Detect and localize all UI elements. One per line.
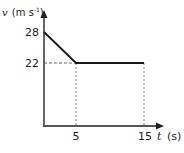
x-axis-label: t (s) bbox=[157, 130, 181, 143]
y-axis-label: v (m s-1) bbox=[2, 6, 44, 18]
x-tick-5: 5 bbox=[73, 130, 80, 143]
velocity-time-chart: v (m s-1) 28 22 5 15 t (s) bbox=[0, 0, 184, 153]
y-tick-28: 28 bbox=[25, 26, 39, 39]
y-tick-22: 22 bbox=[25, 57, 39, 70]
velocity-line bbox=[44, 32, 144, 63]
x-axis-arrow-icon bbox=[156, 123, 164, 130]
x-tick-15: 15 bbox=[138, 130, 152, 143]
